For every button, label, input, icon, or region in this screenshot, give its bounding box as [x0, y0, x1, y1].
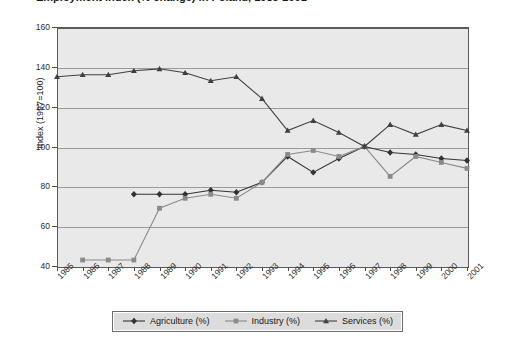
- y-tick-label: 60: [41, 221, 50, 231]
- data-point-diamond: [131, 318, 137, 324]
- gridline: [58, 227, 468, 228]
- legend-item[interactable]: Industry (%): [224, 316, 301, 326]
- gridline: [58, 187, 468, 188]
- legend-marker-diamond-icon: [122, 316, 146, 326]
- chart-legend: Agriculture (%)Industry (%)Services (%): [112, 311, 403, 332]
- y-tick-label: 40: [41, 261, 50, 271]
- legend-item[interactable]: Agriculture (%): [122, 316, 210, 326]
- chart-title: Employment index (% change) in Poland, 1…: [36, 0, 307, 3]
- chart-figure: 406080100120140160 Index (1997=100) 1985…: [14, 8, 494, 342]
- gridline: [58, 108, 468, 109]
- gridline: [58, 28, 468, 29]
- legend-marker-triangle-icon: [314, 316, 338, 326]
- data-point-square: [233, 319, 238, 324]
- legend-marker-square-icon: [224, 316, 248, 326]
- legend-item[interactable]: Services (%): [314, 316, 393, 326]
- y-axis-title: Index (1997=100): [35, 33, 45, 193]
- legend-label: Services (%): [342, 316, 393, 326]
- gridline: [58, 68, 468, 69]
- chart-title-strip: Employment index (% change) in Poland, 1…: [0, 0, 508, 8]
- x-axis: 1985198619871988198919901991199219931994…: [57, 267, 469, 313]
- plot-area: [57, 27, 469, 268]
- y-tick-label: 160: [36, 22, 50, 32]
- legend-label: Agriculture (%): [150, 316, 210, 326]
- gridline: [58, 148, 468, 149]
- legend-label: Industry (%): [252, 316, 301, 326]
